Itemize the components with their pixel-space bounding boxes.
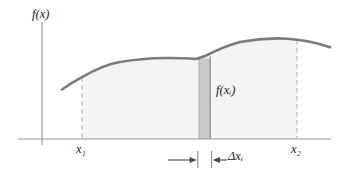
y-axis-label-text: f(x) bbox=[32, 7, 49, 21]
axis-label-x1: x₁ bbox=[76, 143, 86, 156]
riemann-sum-figure: f(x) x₁ x₂ f(xᵢ) Δxᵢ bbox=[0, 0, 345, 175]
riemann-strip bbox=[199, 58, 210, 139]
strip-width-label-text: Δxᵢ bbox=[228, 149, 243, 163]
area-under-curve bbox=[82, 38, 297, 139]
axis-label-x1-text: x₁ bbox=[76, 142, 86, 156]
strip-height-label-text: f(xᵢ) bbox=[216, 83, 235, 97]
width-arrow-left-head bbox=[190, 157, 197, 163]
y-axis-label: f(x) bbox=[32, 8, 49, 21]
strip-width-label: Δxᵢ bbox=[228, 150, 243, 163]
axis-label-x2-text: x₂ bbox=[291, 142, 301, 156]
axis-label-x2: x₂ bbox=[291, 143, 301, 156]
width-arrow-right-head bbox=[213, 157, 220, 163]
strip-height-label: f(xᵢ) bbox=[216, 84, 235, 97]
strip-width-indicator bbox=[168, 151, 227, 168]
